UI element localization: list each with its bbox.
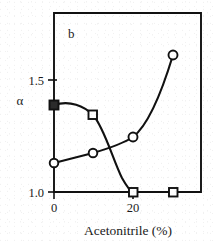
square-marker-10 [89,111,98,120]
chart-canvas: b 1.5 1.0 0 20 α Acetonitrile (%) [0,0,216,241]
circle-marker-10 [89,149,98,158]
figure-panel-b: b 1.5 1.0 0 20 α Acetonitrile (%) [0,0,216,241]
chart-background [0,0,216,241]
x-tick-label-0: 0 [51,201,57,215]
circle-marker-0 [50,159,59,168]
panel-label: b [68,26,75,41]
x-tick-label-20: 20 [127,201,140,215]
y-tick-label-1-5: 1.5 [28,74,44,88]
square-marker-30 [169,188,178,197]
y-axis-label: α [17,93,24,108]
square-marker-20 [129,188,138,197]
x-axis-label: Acetonitrile (%) [84,223,172,238]
square-marker-0 [50,101,59,110]
circle-marker-30 [169,51,178,60]
circle-marker-20 [129,133,138,142]
y-tick-label-1-0: 1.0 [28,186,44,200]
